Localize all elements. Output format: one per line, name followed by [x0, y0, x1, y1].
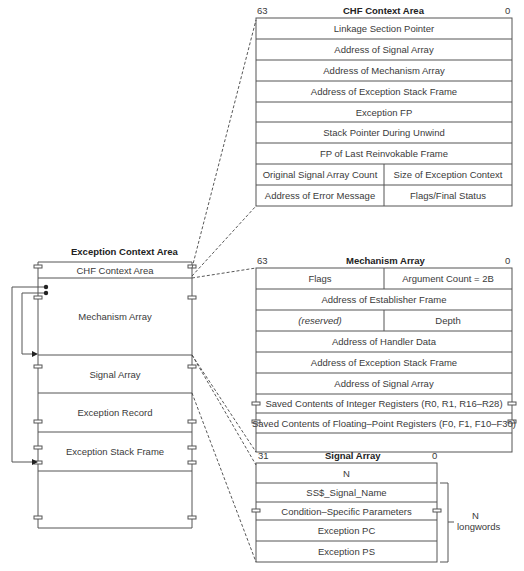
eca-segment-exception-record: Exception Record: [38, 393, 192, 432]
mech-row: Saved Contents of Floating–Point Registe…: [256, 413, 512, 433]
eca-segment-mechanism: Mechanism Array: [38, 278, 192, 355]
brace-label-n: N: [472, 510, 479, 521]
chf-row-right: Flags/Final Status: [384, 185, 512, 206]
chf-bit-high: 63: [257, 5, 268, 16]
sig-row: Condition–Specific Parameters: [256, 502, 437, 520]
chf-row: FP of Last Reinvokable Frame: [256, 143, 512, 164]
eca-segment-exception-stack-frame: Exception Stack Frame: [38, 432, 192, 471]
chf-row-right: Size of Exception Context: [384, 164, 512, 185]
chf-row: Address of Signal Array: [256, 39, 512, 60]
mech-bit-high: 63: [257, 255, 268, 266]
mech-row-right: Argument Count = 2B: [384, 268, 512, 289]
mech-bit-low: 0: [505, 255, 510, 266]
eca-segment-signal: Signal Array: [38, 355, 192, 393]
chf-title: CHF Context Area: [343, 5, 424, 16]
chf-row-left: Address of Error Message: [256, 185, 384, 206]
sig-bit-low: 0: [432, 450, 437, 461]
eca-title: Exception Context Area: [71, 246, 178, 257]
mech-title: Mechanism Array: [346, 255, 425, 266]
mech-row: Saved Contents of Integer Registers (R0,…: [256, 394, 512, 413]
mech-row-left: (reserved): [256, 310, 384, 331]
chf-row: Linkage Section Pointer: [256, 18, 512, 39]
sig-title: Signal Array: [325, 450, 381, 461]
chf-row: Address of Exception Stack Frame: [256, 81, 512, 102]
chf-bit-low: 0: [505, 5, 510, 16]
chf-row: Exception FP: [256, 102, 512, 122]
sig-row: N: [256, 463, 437, 483]
sig-row: SS$_Signal_Name: [256, 483, 437, 502]
mech-row: Address of Exception Stack Frame: [256, 352, 512, 373]
mech-row: Address of Handler Data: [256, 331, 512, 352]
brace-label-longwords: longwords: [457, 521, 500, 532]
sig-bit-high: 31: [258, 450, 269, 461]
mech-row-left: Flags: [256, 268, 384, 289]
mech-row-right: Depth: [384, 310, 512, 331]
chf-row: Address of Mechanism Array: [256, 60, 512, 81]
sig-row: Exception PC: [256, 520, 437, 541]
mech-row: Address of Signal Array: [256, 373, 512, 394]
chf-row: Stack Pointer During Unwind: [256, 122, 512, 143]
sig-row: Exception PS: [256, 541, 437, 562]
mech-row: Address of Establisher Frame: [256, 289, 512, 310]
chf-row-left: Original Signal Array Count: [256, 164, 384, 185]
eca-segment-chf: CHF Context Area: [38, 262, 192, 278]
